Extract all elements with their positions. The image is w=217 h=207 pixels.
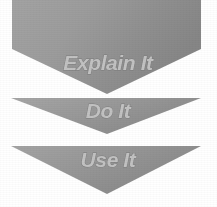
process-arrow-diagram: Explain It Do It Use It: [0, 0, 217, 207]
arrow-polygon-step-1: [12, 0, 201, 94]
step-label-use-it: Use It: [81, 148, 137, 171]
arrow-shape-step-1: [12, 0, 201, 94]
step-label-explain-it: Explain It: [63, 51, 154, 74]
figure-canvas: Explain It Do It Use It: [0, 0, 217, 207]
step-label-do-it: Do It: [86, 99, 132, 122]
